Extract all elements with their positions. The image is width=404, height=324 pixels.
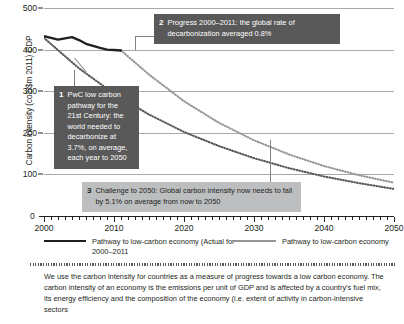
x-tick-2028 [240, 217, 241, 220]
callout-1-number: 1 [59, 90, 63, 101]
x-tick-2037 [303, 217, 304, 220]
y-tick-mark-400 [38, 49, 43, 50]
legend-swatch-pathway [234, 240, 276, 242]
x-tick-2048 [380, 217, 381, 220]
callout-2-number: 2 [159, 18, 163, 29]
x-tick-2042 [338, 217, 339, 220]
x-tick-2019 [177, 217, 178, 220]
x-tick-2033 [275, 217, 276, 220]
y-tick-label-100: 100 [23, 169, 37, 179]
x-tick-2041 [331, 217, 332, 220]
x-tick-2043 [345, 217, 346, 220]
legend: Pathway to low-carbon economy (Actual fo… [44, 237, 400, 259]
x-tick-2010 [114, 217, 115, 222]
x-tick-2047 [373, 217, 374, 220]
x-tick-2027 [233, 217, 234, 220]
x-tick-2044 [352, 217, 353, 220]
x-tick-2031 [261, 217, 262, 220]
x-tick-2002 [58, 217, 59, 220]
y-tick-mark-500 [38, 8, 43, 9]
x-tick-2006 [86, 217, 87, 220]
legend-label-pathway: Pathway to low-carbon economy [282, 237, 389, 247]
x-tick-2050 [394, 217, 395, 222]
x-tick-2039 [317, 217, 318, 220]
y-tick-label-500: 500 [23, 3, 37, 13]
y-axis-zero-label: 0 [30, 211, 35, 221]
x-tick-2040 [324, 217, 325, 222]
x-tick-2009 [107, 217, 108, 220]
callout-2-text: Progress 2000–2011: the global rate of d… [167, 18, 334, 39]
x-tick-2038 [310, 217, 311, 220]
x-tick-label-2030: 2030 [244, 223, 263, 233]
x-tick-2015 [149, 217, 150, 220]
x-tick-2025 [219, 217, 220, 220]
x-tick-2003 [65, 217, 66, 220]
y-axis-title: Carbon intensity (co2/$m 2011) CDP [25, 11, 34, 191]
x-tick-2018 [170, 217, 171, 220]
x-tick-2016 [156, 217, 157, 220]
y-tick-label-400: 400 [23, 45, 37, 55]
x-tick-2045 [359, 217, 360, 220]
callout-3-number: 3 [87, 186, 91, 197]
legend-swatch-actual [44, 240, 86, 242]
x-tick-2049 [387, 217, 388, 220]
callout-2-leader-vertical [135, 36, 136, 50]
callout-3-text: Challenge to 2050: Global carbon intensi… [95, 186, 295, 207]
legend-item-pathway[interactable]: Pathway to low-carbon economy [234, 237, 404, 247]
x-tick-2034 [282, 217, 283, 220]
x-tick-2032 [268, 217, 269, 220]
series-future-pathway-line [121, 50, 394, 182]
callout-1-leader-vertical [74, 70, 75, 87]
callout-1-text: PwC low carbon pathway for the 21st Cent… [67, 90, 133, 164]
x-tick-2030 [254, 217, 255, 222]
x-tick-label-2010: 2010 [104, 223, 123, 233]
x-tick-2004 [72, 217, 73, 220]
x-tick-2046 [366, 217, 367, 220]
x-tick-2008 [100, 217, 101, 220]
x-tick-2036 [296, 217, 297, 220]
y-tick-label-300: 300 [23, 86, 37, 96]
y-tick-label-200: 200 [23, 128, 37, 138]
y-tick-mark-300 [38, 91, 43, 92]
x-tick-2005 [79, 217, 80, 220]
x-tick-2001 [51, 217, 52, 220]
callout-2[interactable]: 2 Progress 2000–2011: the global rate of… [154, 14, 340, 44]
x-tick-label-2000: 2000 [34, 223, 53, 233]
x-tick-2012 [128, 217, 129, 220]
x-tick-label-2020: 2020 [174, 223, 193, 233]
footnote-divider [30, 263, 396, 266]
x-tick-label-2050: 2050 [384, 223, 403, 233]
x-tick-2026 [226, 217, 227, 220]
legend-item-actual[interactable]: Pathway to low-carbon economy (Actual fo… [44, 237, 244, 257]
y-tick-mark-100 [38, 174, 43, 175]
x-tick-2022 [198, 217, 199, 220]
x-tick-2013 [135, 217, 136, 220]
callout-3[interactable]: 3 Challenge to 2050: Global carbon inten… [82, 182, 301, 212]
x-tick-2023 [205, 217, 206, 220]
x-tick-2021 [191, 217, 192, 220]
x-tick-2014 [142, 217, 143, 220]
x-tick-2035 [289, 217, 290, 220]
x-tick-2007 [93, 217, 94, 220]
x-tick-2011 [121, 217, 122, 220]
x-tick-2024 [212, 217, 213, 220]
footnote-text: We use the carbon intensity for countrie… [44, 271, 384, 315]
callout-2-leader-horizontal [135, 36, 155, 37]
x-tick-2000 [44, 217, 45, 222]
y-tick-mark-200 [38, 132, 43, 133]
legend-label-actual: Pathway to low-carbon economy (Actual fo… [92, 237, 244, 257]
callout-1[interactable]: 1 PwC low carbon pathway for the 21st Ce… [54, 86, 139, 169]
x-tick-2029 [247, 217, 248, 220]
callout-3-leader-vertical [270, 140, 271, 182]
x-tick-2020 [184, 217, 185, 222]
x-tick-label-2040: 2040 [314, 223, 333, 233]
x-tick-2017 [163, 217, 164, 220]
